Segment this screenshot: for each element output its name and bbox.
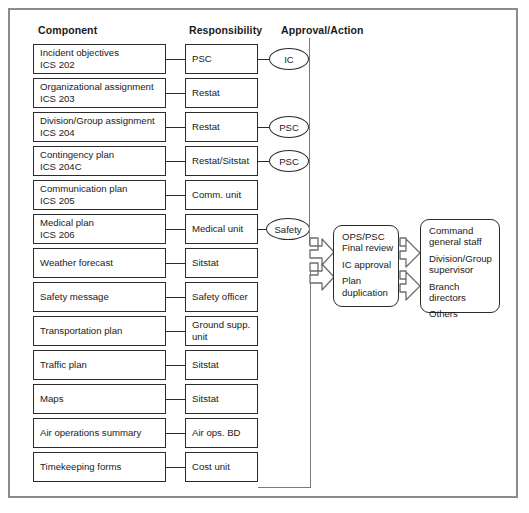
component-box-13[interactable]: Timekeeping forms bbox=[33, 452, 166, 482]
component-box-9[interactable]: Transportation plan bbox=[33, 316, 166, 346]
component-box-11[interactable]: Maps bbox=[33, 384, 166, 414]
component-label: Timekeeping forms bbox=[40, 461, 162, 473]
responsibility-label: Restat bbox=[192, 87, 254, 99]
component-label: Medical plan bbox=[40, 217, 162, 229]
responsibility-box-3[interactable]: Restat bbox=[185, 112, 258, 142]
responsibility-box-12[interactable]: Air ops. BD bbox=[185, 418, 258, 448]
responsibility-box-7[interactable]: Sitstat bbox=[185, 248, 258, 278]
connector-line bbox=[166, 93, 185, 95]
component-label: Incident objectives bbox=[40, 47, 162, 59]
review-process-box[interactable]: OPS/PSCFinal review IC approval Plandupl… bbox=[333, 225, 399, 307]
responsibility-box-8[interactable]: Safety officer bbox=[185, 282, 258, 312]
connector-line bbox=[166, 399, 185, 401]
review-ic-approval: IC approval bbox=[342, 259, 392, 270]
column-header-responsibility: Responsibility bbox=[189, 24, 262, 36]
component-box-2[interactable]: Organizational assignment ICS 203 bbox=[33, 78, 166, 108]
distribution-branch-directors: Branchdirectors bbox=[429, 281, 493, 304]
component-label: Communication plan bbox=[40, 183, 162, 195]
approval-rail-upper bbox=[309, 38, 310, 245]
connector-line bbox=[166, 365, 185, 367]
responsibility-label: PSC bbox=[192, 53, 254, 65]
approval-rail-bottom-horizontal bbox=[258, 487, 311, 488]
component-label: Contingency plan bbox=[40, 149, 162, 161]
component-form-number: ICS 204C bbox=[40, 161, 162, 173]
responsibility-label: Restat bbox=[192, 121, 254, 133]
review-plan-duplication: Planduplication bbox=[342, 275, 392, 298]
connector-line bbox=[166, 331, 185, 333]
component-label: Air operations summary bbox=[40, 427, 162, 439]
approval-ellipse-ic[interactable]: IC bbox=[269, 48, 309, 70]
component-form-number: ICS 205 bbox=[40, 195, 162, 207]
component-box-3[interactable]: Division/Group assignment ICS 204 bbox=[33, 112, 166, 142]
component-box-8[interactable]: Safety message bbox=[33, 282, 166, 312]
connector-line bbox=[166, 229, 185, 231]
approval-label: PSC bbox=[279, 122, 299, 133]
responsibility-box-6[interactable]: Medical unit bbox=[185, 214, 258, 244]
component-label: Maps bbox=[40, 393, 162, 405]
connector-line bbox=[166, 161, 185, 163]
component-form-number: ICS 204 bbox=[40, 127, 162, 139]
approval-label: Safety bbox=[274, 224, 301, 235]
responsibility-label: Sitstat bbox=[192, 257, 254, 269]
component-label: Safety message bbox=[40, 291, 162, 303]
connector-line bbox=[258, 127, 269, 129]
responsibility-box-13[interactable]: Cost unit bbox=[185, 452, 258, 482]
component-label: Organizational assignment bbox=[40, 81, 162, 93]
responsibility-label: Sitstat bbox=[192, 359, 254, 371]
component-box-7[interactable]: Weather forecast bbox=[33, 248, 166, 278]
connector-line bbox=[166, 195, 185, 197]
connector-line bbox=[166, 467, 185, 469]
connector-line bbox=[166, 59, 185, 61]
component-label: Division/Group assignment bbox=[40, 115, 162, 127]
approval-rail-lower bbox=[310, 270, 311, 488]
component-box-1[interactable]: Incident objectives ICS 202 bbox=[33, 44, 166, 74]
connector-line bbox=[258, 59, 269, 61]
review-final-review: OPS/PSCFinal review bbox=[342, 231, 392, 254]
responsibility-label-line2: unit bbox=[192, 331, 254, 343]
diagram-canvas: Component Responsibility Approval/Action… bbox=[0, 0, 529, 513]
component-form-number: ICS 203 bbox=[40, 93, 162, 105]
responsibility-label: Air ops. BD bbox=[192, 427, 254, 439]
approval-label: IC bbox=[284, 54, 294, 65]
connector-line bbox=[258, 161, 269, 163]
connector-line bbox=[166, 297, 185, 299]
responsibility-label: Restat/Sitstat bbox=[192, 155, 254, 167]
component-box-6[interactable]: Medical plan ICS 206 bbox=[33, 214, 166, 244]
column-header-approval: Approval/Action bbox=[281, 24, 364, 36]
component-label: Weather forecast bbox=[40, 257, 162, 269]
component-form-number: ICS 202 bbox=[40, 59, 162, 71]
responsibility-label: Comm. unit bbox=[192, 189, 254, 201]
component-label: Traffic plan bbox=[40, 359, 162, 371]
responsibility-label: Sitstat bbox=[192, 393, 254, 405]
component-box-4[interactable]: Contingency plan ICS 204C bbox=[33, 146, 166, 176]
responsibility-box-5[interactable]: Comm. unit bbox=[185, 180, 258, 210]
connector-line bbox=[258, 229, 266, 231]
component-box-12[interactable]: Air operations summary bbox=[33, 418, 166, 448]
approval-ellipse-psc-1[interactable]: PSC bbox=[269, 116, 309, 138]
responsibility-label: Cost unit bbox=[192, 461, 254, 473]
approval-ellipse-safety[interactable]: Safety bbox=[266, 218, 310, 240]
connector-line bbox=[166, 433, 185, 435]
responsibility-box-4[interactable]: Restat/Sitstat bbox=[185, 146, 258, 176]
responsibility-box-10[interactable]: Sitstat bbox=[185, 350, 258, 380]
distribution-division-group-supervisor: Division/Groupsupervisor bbox=[429, 253, 493, 276]
connector-line bbox=[166, 127, 185, 129]
responsibility-label: Medical unit bbox=[192, 223, 254, 235]
responsibility-box-11[interactable]: Sitstat bbox=[185, 384, 258, 414]
approval-label: PSC bbox=[279, 156, 299, 167]
connector-line bbox=[166, 263, 185, 265]
distribution-command-general-staff: Commandgeneral staff bbox=[429, 225, 493, 248]
component-label: Transportation plan bbox=[40, 325, 162, 337]
distribution-others: Others bbox=[429, 308, 493, 319]
responsibility-box-9[interactable]: Ground supp. unit bbox=[185, 316, 258, 346]
component-form-number: ICS 206 bbox=[40, 229, 162, 241]
column-header-component: Component bbox=[38, 24, 97, 36]
responsibility-label: Safety officer bbox=[192, 291, 254, 303]
component-box-5[interactable]: Communication plan ICS 205 bbox=[33, 180, 166, 210]
responsibility-label: Ground supp. bbox=[192, 319, 254, 331]
responsibility-box-1[interactable]: PSC bbox=[185, 44, 258, 74]
distribution-box[interactable]: Commandgeneral staff Division/Groupsuper… bbox=[420, 219, 500, 313]
responsibility-box-2[interactable]: Restat bbox=[185, 78, 258, 108]
component-box-10[interactable]: Traffic plan bbox=[33, 350, 166, 380]
approval-ellipse-psc-2[interactable]: PSC bbox=[269, 150, 309, 172]
